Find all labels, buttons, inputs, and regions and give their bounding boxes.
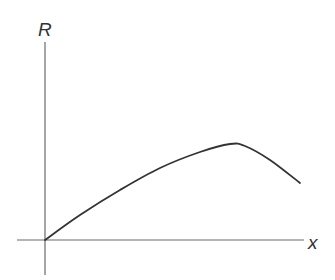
chart: R x (0, 0, 335, 280)
y-axis-label: R (38, 19, 52, 40)
curve-line (45, 143, 300, 240)
x-axis-label: x (307, 232, 319, 253)
